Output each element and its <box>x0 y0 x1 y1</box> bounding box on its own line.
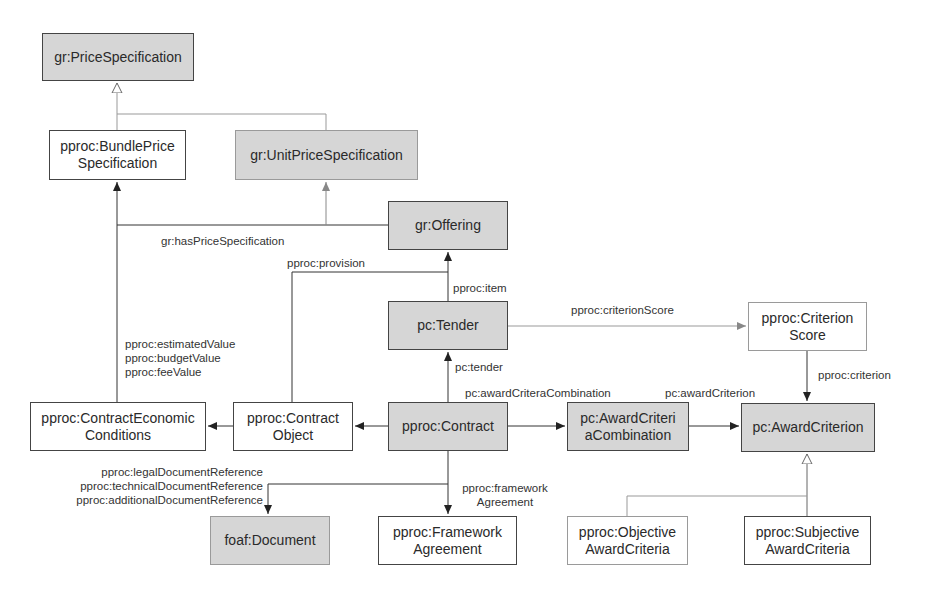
label-award-criteria-combination: pc:awardCriteraCombination <box>465 386 611 400</box>
node-tender: pc:Tender <box>388 301 508 350</box>
node-contract: pproc:Contract <box>388 402 508 451</box>
node-label: pproc:BundlePrice Specification <box>60 138 174 172</box>
node-criterion-score: pproc:Criterion Score <box>748 302 867 351</box>
node-label: pc:AwardCriteri aCombination <box>580 410 675 444</box>
node-label: gr:PriceSpecification <box>54 49 182 66</box>
node-label: pproc:Contract Object <box>247 410 339 444</box>
label-value-props: pproc:estimatedValue pproc:budgetValue p… <box>125 337 235 379</box>
node-label: gr:UnitPriceSpecification <box>250 147 403 164</box>
node-label: pproc:Criterion Score <box>762 310 854 344</box>
node-label: pc:Tender <box>417 317 478 334</box>
node-bundle-price-specification: pproc:BundlePrice Specification <box>49 130 186 180</box>
node-objective-award-criteria: pproc:Objective AwardCriteria <box>567 516 688 565</box>
label-provision: pproc:provision <box>287 256 365 270</box>
node-label: pproc:Framework Agreement <box>393 524 502 558</box>
edge-subclass-price-spec <box>117 83 326 130</box>
edge-subclass-award-criterion <box>627 454 807 516</box>
label-tender: pc:tender <box>455 360 503 374</box>
node-contract-economic-conditions: pproc:ContractEconomic Conditions <box>30 402 206 451</box>
label-item: pproc:item <box>453 281 507 295</box>
node-label: pproc:Subjective AwardCriteria <box>756 524 860 558</box>
node-award-criterion: pc:AwardCriterion <box>741 403 875 452</box>
edge-has-price-specification <box>117 182 388 225</box>
edge-framework-and-docs <box>268 451 448 514</box>
node-contract-object: pproc:Contract Object <box>233 402 353 451</box>
node-award-criteria-combination: pc:AwardCriteri aCombination <box>567 402 689 451</box>
node-offering: gr:Offering <box>388 201 508 250</box>
node-price-specification: gr:PriceSpecification <box>42 33 194 81</box>
node-label: pc:AwardCriterion <box>752 419 863 436</box>
node-framework-agreement: pproc:Framework Agreement <box>378 516 517 565</box>
node-label: pproc:Contract <box>402 418 494 435</box>
label-criterion: pproc:criterion <box>818 368 891 382</box>
node-label: foaf:Document <box>224 532 315 549</box>
label-has-price-specification: gr:hasPriceSpecification <box>161 234 284 248</box>
label-document-refs: pproc:legalDocumentReference pproc:techn… <box>45 465 263 507</box>
node-subjective-award-criteria: pproc:Subjective AwardCriteria <box>744 516 871 565</box>
node-document: foaf:Document <box>210 516 330 565</box>
node-label: pproc:ContractEconomic Conditions <box>41 410 194 444</box>
node-label: gr:Offering <box>415 217 481 234</box>
label-criterion-score: pproc:criterionScore <box>571 303 674 317</box>
label-framework-agreement: pproc:framework Agreement <box>451 481 559 509</box>
node-unit-price-specification: gr:UnitPriceSpecification <box>235 130 418 180</box>
label-award-criterion: pc:awardCriterion <box>665 386 755 400</box>
node-label: pproc:Objective AwardCriteria <box>579 524 676 558</box>
